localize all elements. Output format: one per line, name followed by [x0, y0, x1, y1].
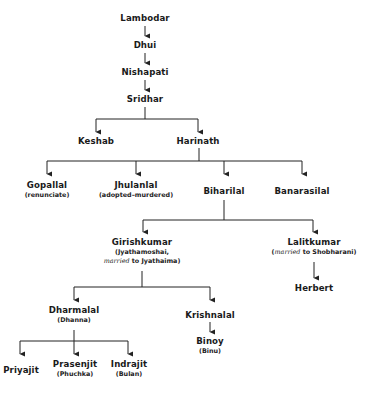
- node-priyajit: Priyajit: [3, 365, 39, 376]
- node-name: Dharmalal: [49, 305, 100, 316]
- node-jhulanlal: Jhulanlal (adopted–murdered): [99, 180, 173, 200]
- node-biharilal: Biharilal: [203, 186, 244, 197]
- note-rest: to Jyathaima): [130, 257, 181, 265]
- node-krishnalal: Krishnalal: [185, 310, 235, 321]
- node-keshab: Keshab: [78, 136, 114, 147]
- node-harinath: Harinath: [176, 136, 219, 147]
- node-note: (Phuchka): [53, 370, 97, 379]
- node-name: Jhulanlal: [99, 180, 173, 191]
- node-name: Banarasilal: [274, 186, 329, 197]
- node-name: Keshab: [78, 136, 114, 147]
- node-note: (adopted–murdered): [99, 191, 173, 200]
- node-name: Prasenjit: [53, 359, 97, 370]
- node-name: Indrajit: [111, 359, 147, 370]
- node-name: Harinath: [176, 136, 219, 147]
- node-name: Sridhar: [127, 94, 163, 105]
- node-dharmalal: Dharmalal (Dhanna): [49, 305, 100, 325]
- node-name: Lambodar: [120, 13, 169, 24]
- married-italic: married: [104, 257, 130, 265]
- node-name: Lalitkumar: [272, 237, 357, 248]
- node-sridhar: Sridhar: [127, 94, 163, 105]
- node-note: (Bulan): [111, 370, 147, 379]
- married-italic: married: [275, 248, 301, 256]
- node-name: Dhui: [134, 40, 157, 51]
- note-rest: to Shobharani): [300, 248, 356, 256]
- node-name: Krishnalal: [185, 310, 235, 321]
- node-banarasilal: Banarasilal: [274, 186, 329, 197]
- node-binoy: Binoy (Binu): [196, 336, 224, 356]
- node-indrajit: Indrajit (Bulan): [111, 359, 147, 379]
- node-name: Priyajit: [3, 365, 39, 376]
- node-prasenjit: Prasenjit (Phuchka): [53, 359, 97, 379]
- node-gopallal: Gopallal (renunciate): [25, 180, 70, 200]
- node-name: Gopallal: [25, 180, 70, 191]
- node-note: (renunciate): [25, 191, 70, 200]
- node-name: Binoy: [196, 336, 224, 347]
- node-name: Herbert: [295, 283, 333, 294]
- node-nishapati: Nishapati: [121, 67, 168, 78]
- node-note: (married to Shobharani): [272, 248, 357, 257]
- node-dhui: Dhui: [134, 40, 157, 51]
- node-lalitkumar: Lalitkumar (married to Shobharani): [272, 237, 357, 257]
- node-lambodar: Lambodar: [120, 13, 169, 24]
- node-girishkumar: Girishkumar (Jyathamoshai, married to Jy…: [104, 237, 181, 265]
- node-note-line2: married to Jyathaima): [104, 257, 181, 266]
- node-note: (Dhanna): [49, 316, 100, 325]
- node-herbert: Herbert: [295, 283, 333, 294]
- tree-connectors: [0, 0, 366, 409]
- node-note-line1: (Jyathamoshai,: [104, 248, 181, 257]
- node-name: Nishapati: [121, 67, 168, 78]
- node-name: Biharilal: [203, 186, 244, 197]
- node-name: Girishkumar: [104, 237, 181, 248]
- node-note: (Binu): [196, 347, 224, 356]
